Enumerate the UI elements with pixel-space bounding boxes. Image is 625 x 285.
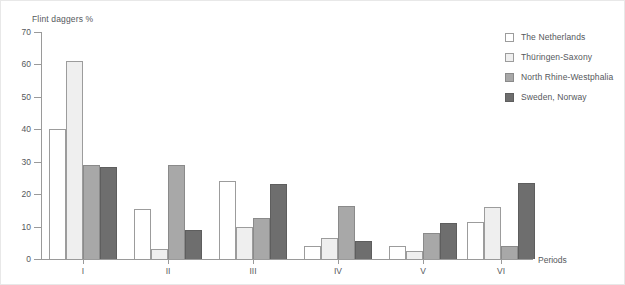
legend: The NetherlandsThüringen-SaxonyNorth Rhi…: [505, 27, 613, 107]
x-axis-tick: [501, 260, 502, 264]
bar[interactable]: [304, 246, 321, 259]
bar[interactable]: [236, 227, 253, 259]
bar[interactable]: [185, 230, 202, 259]
legend-item[interactable]: North Rhine-Westphalia: [505, 67, 613, 87]
y-axis-tick-label: 0: [9, 255, 31, 264]
flint-daggers-bar-chart: Flint daggers % 010203040506070 IIIIIIIV…: [0, 0, 625, 285]
bar-group-iv: [304, 32, 372, 259]
bar-group-i: [49, 32, 117, 259]
x-axis-tick: [253, 260, 254, 264]
bar[interactable]: [270, 184, 287, 259]
x-axis-label-v: V: [403, 267, 443, 276]
bar[interactable]: [501, 246, 518, 259]
legend-swatch-icon: [505, 93, 514, 102]
bar[interactable]: [151, 249, 168, 259]
x-axis-label-iii: III: [233, 267, 273, 276]
x-axis-tick: [423, 260, 424, 264]
x-axis-label-vi: VI: [481, 267, 521, 276]
legend-item[interactable]: Sweden, Norway: [505, 87, 613, 107]
bar[interactable]: [168, 165, 185, 259]
bar[interactable]: [49, 129, 66, 259]
legend-swatch-icon: [505, 33, 514, 42]
x-axis-tick: [168, 260, 169, 264]
bar[interactable]: [253, 218, 270, 259]
bar-group-ii: [134, 32, 202, 259]
x-axis-tick: [338, 260, 339, 264]
bar[interactable]: [423, 233, 440, 259]
legend-label: North Rhine-Westphalia: [521, 72, 613, 82]
bar-group-v: [389, 32, 457, 259]
bar[interactable]: [83, 165, 100, 259]
bar[interactable]: [338, 206, 355, 260]
y-axis-tick: [34, 259, 42, 260]
bar[interactable]: [355, 241, 372, 259]
bar[interactable]: [406, 251, 423, 259]
legend-label: Thüringen-Saxony: [521, 52, 592, 62]
legend-label: The Netherlands: [521, 32, 585, 42]
plot-area: [41, 32, 511, 259]
bar[interactable]: [66, 61, 83, 259]
legend-item[interactable]: The Netherlands: [505, 27, 613, 47]
bar[interactable]: [484, 207, 501, 259]
y-axis-title: Flint daggers %: [32, 14, 93, 24]
y-axis-tick-label: 50: [9, 93, 31, 102]
x-axis-line: [41, 259, 533, 260]
x-axis-label-i: I: [63, 267, 103, 276]
y-axis-tick-label: 20: [9, 190, 31, 199]
bar[interactable]: [389, 246, 406, 259]
y-axis-tick-label: 30: [9, 158, 31, 167]
bar[interactable]: [440, 223, 457, 259]
x-axis-title: Periods: [538, 255, 567, 265]
y-axis-tick-label: 10: [9, 223, 31, 232]
bar[interactable]: [219, 181, 236, 259]
bar[interactable]: [100, 167, 117, 259]
bar[interactable]: [467, 222, 484, 259]
bar-group-iii: [219, 32, 287, 259]
legend-label: Sweden, Norway: [521, 92, 587, 102]
x-axis-label-ii: II: [148, 267, 188, 276]
y-axis-tick-label: 60: [9, 60, 31, 69]
bar[interactable]: [134, 209, 151, 259]
legend-swatch-icon: [505, 53, 514, 62]
y-axis-tick-label: 70: [9, 28, 31, 37]
legend-swatch-icon: [505, 73, 514, 82]
legend-item[interactable]: Thüringen-Saxony: [505, 47, 613, 67]
bar[interactable]: [518, 183, 535, 259]
bar[interactable]: [321, 238, 338, 259]
x-axis-tick: [83, 260, 84, 264]
y-axis-tick-label: 40: [9, 125, 31, 134]
x-axis-label-iv: IV: [318, 267, 358, 276]
